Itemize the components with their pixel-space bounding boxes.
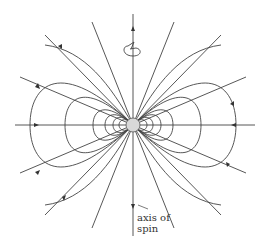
axis-label-line1: axis of (137, 212, 170, 223)
dipole-field-diagram: axis of spin (0, 0, 267, 246)
axis-label-line2: spin (137, 223, 170, 234)
spinning-body (126, 118, 140, 132)
field-lines-graphic (0, 0, 267, 246)
rotation-arrow-icon (124, 42, 140, 56)
axis-label: axis of spin (137, 212, 170, 234)
